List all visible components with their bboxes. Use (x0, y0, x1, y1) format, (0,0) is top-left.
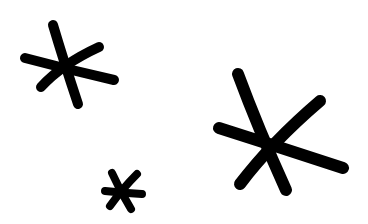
drawing-canvas (0, 0, 368, 224)
asterisk-icon (105, 173, 142, 209)
asterisk-icon (25, 25, 114, 104)
asterisk-icon (219, 74, 343, 190)
